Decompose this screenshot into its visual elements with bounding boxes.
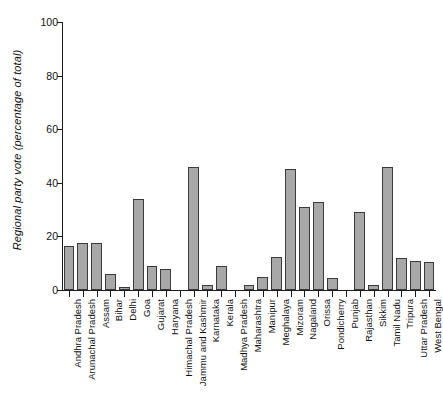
x-axis-tick-label: Punjab: [350, 299, 360, 329]
bar: [119, 287, 130, 290]
x-axis-tick-mark: [429, 291, 430, 297]
x-axis-tick-mark: [194, 291, 195, 297]
x-axis-tick-mark: [235, 291, 236, 297]
bar: [271, 257, 282, 291]
x-axis-tick-label: Tamil Nadu: [392, 299, 402, 347]
x-axis-tick-label: Rajasthan: [364, 299, 374, 342]
bar: [327, 278, 338, 290]
x-axis-tick-mark: [332, 291, 333, 297]
x-axis-tick-label: Gujarat: [156, 299, 166, 330]
y-axis-tick-label: 0: [52, 284, 58, 296]
bar: [354, 212, 365, 290]
bar: [396, 258, 407, 290]
x-axis-tick-label: Maharashtra: [253, 299, 263, 352]
x-axis-tick-mark: [304, 291, 305, 297]
bar: [424, 262, 435, 290]
x-axis-tick-mark: [69, 291, 70, 297]
y-axis-tick-label: 60: [46, 123, 58, 135]
bar: [105, 274, 116, 290]
x-axis-tick-mark: [415, 291, 416, 297]
x-axis-tick-mark: [83, 291, 84, 297]
x-axis-tick-mark: [221, 291, 222, 297]
bar: [244, 285, 255, 290]
bar: [382, 167, 393, 290]
x-axis-tick-label: Andhra Pradesh: [73, 299, 83, 368]
x-axis-tick-label: Manipur: [267, 299, 277, 333]
y-axis-tick-label: 80: [46, 70, 58, 82]
bar: [147, 266, 158, 290]
x-axis-ticks: [62, 291, 436, 297]
y-axis-tick-label: 100: [40, 16, 58, 28]
bar: [202, 285, 213, 290]
x-axis-tick-mark: [207, 291, 208, 297]
x-axis-tick-label: Sikkim: [378, 299, 388, 327]
y-axis-tick-label: 20: [46, 230, 58, 242]
x-axis-tick-label: Bihar: [114, 299, 124, 321]
x-axis-tick-mark: [166, 291, 167, 297]
x-axis-tick-mark: [360, 291, 361, 297]
x-axis-tick-label: Karnataka: [211, 299, 221, 342]
x-axis-tick-label: Himachal Pradesh: [184, 299, 194, 377]
x-axis-tick-label: Mizoram: [295, 299, 305, 335]
y-axis-title-text: Regional party vote (percentage of total…: [11, 50, 23, 250]
x-axis-tick-mark: [374, 291, 375, 297]
x-axis-tick-label: Kerala: [225, 299, 235, 326]
x-axis-tick-mark: [263, 291, 264, 297]
x-axis-tick-label: Uttar Pradesh: [419, 299, 429, 358]
bar: [77, 243, 88, 290]
bar: [257, 277, 268, 290]
x-axis-tick-label: Orissa: [322, 299, 332, 326]
x-axis-tick-label: Nagaland: [308, 299, 318, 340]
x-axis-labels: Andhra PradeshArunachal PradeshAssamBiha…: [62, 299, 436, 409]
x-axis-tick-mark: [138, 291, 139, 297]
x-axis-tick-mark: [277, 291, 278, 297]
x-axis-tick-mark: [124, 291, 125, 297]
x-axis-tick-mark: [401, 291, 402, 297]
bar: [133, 199, 144, 290]
x-axis-tick-label: Pondicherry: [336, 299, 346, 350]
bar: [285, 169, 296, 290]
bar: [64, 246, 75, 290]
x-axis-tick-mark: [97, 291, 98, 297]
bar-series: [62, 22, 436, 290]
x-axis-tick-label: Meghalaya: [281, 299, 291, 345]
bar: [410, 261, 421, 290]
x-axis-tick-label: Tripura: [405, 299, 415, 329]
x-axis-tick-mark: [346, 291, 347, 297]
bar: [313, 202, 324, 290]
x-axis-tick-label: Madhya Pradesh: [239, 299, 249, 371]
x-axis-tick-label: Goa: [142, 299, 152, 317]
x-axis-tick-mark: [318, 291, 319, 297]
bar: [160, 269, 171, 290]
bar: [368, 285, 379, 290]
plot-area: [62, 22, 436, 290]
bar: [91, 243, 102, 290]
x-axis-tick-label: Haryana: [170, 299, 180, 335]
bar: [188, 167, 199, 290]
x-axis-tick-label: Delhi: [128, 299, 138, 321]
x-axis-tick-mark: [291, 291, 292, 297]
x-axis-tick-label: Jammu and Kashmir: [198, 299, 208, 386]
x-axis-tick-label: Assam: [101, 299, 111, 328]
bar: [299, 207, 310, 290]
x-axis-tick-label: Arunachal Pradesh: [87, 299, 97, 380]
bar: [216, 266, 227, 290]
x-axis-tick-mark: [152, 291, 153, 297]
x-axis-tick-mark: [388, 291, 389, 297]
y-axis-tick-label: 40: [46, 177, 58, 189]
x-axis-tick-mark: [110, 291, 111, 297]
x-axis-tick-label: West Bengal: [433, 299, 443, 353]
y-axis-title: Regional party vote (percentage of total…: [2, 0, 32, 300]
x-axis-tick-mark: [180, 291, 181, 297]
x-axis-tick-mark: [249, 291, 250, 297]
